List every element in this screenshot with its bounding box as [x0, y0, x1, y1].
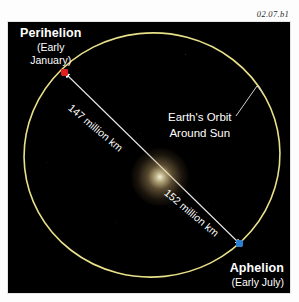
aphelion-marker	[236, 240, 243, 247]
orbit-callout-line1: Earth's Orbit	[168, 110, 232, 126]
orbit-callout-line2: Around Sun	[168, 126, 232, 142]
aphelion-label: Aphelion (Early July)	[230, 261, 284, 289]
perihelion-title: Perihelion	[20, 26, 81, 41]
orbit-major-axis-arrow	[65, 73, 240, 244]
perihelion-subtitle-line2: January)	[20, 54, 81, 67]
aphelion-subtitle-line1: (Early July)	[230, 276, 284, 289]
figure-code-label: 02.07.b1	[257, 9, 289, 19]
perihelion-marker	[61, 69, 68, 76]
perihelion-subtitle-line1: (Early	[20, 41, 81, 54]
page-background: 02.07.b1 Perihelion (Early Janua	[0, 0, 299, 302]
page-top-bleed-text	[0, 0, 299, 12]
orbit-callout-label: Earth's Orbit Around Sun	[168, 110, 232, 141]
orbit-callout-leader-line	[236, 86, 262, 116]
aphelion-title: Aphelion	[230, 261, 284, 276]
orbit-diagram-panel: Perihelion (Early January) Aphelion (Ear…	[8, 22, 290, 293]
perihelion-label: Perihelion (Early January)	[20, 26, 81, 67]
